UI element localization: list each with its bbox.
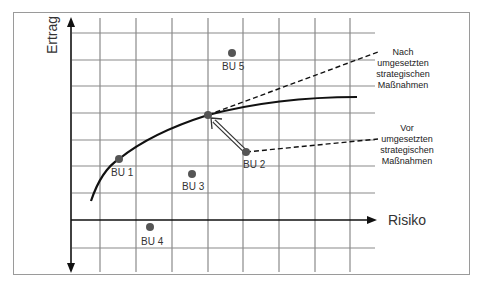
svg-text:umgesetzten: umgesetzten bbox=[381, 134, 433, 144]
x-axis-label: Risiko bbox=[388, 212, 426, 228]
label-bu1: BU 1 bbox=[111, 167, 134, 178]
svg-text:umgesetzten: umgesetzten bbox=[377, 58, 429, 68]
label-bu4: BU 4 bbox=[141, 236, 164, 247]
svg-text:Nach: Nach bbox=[392, 47, 413, 57]
svg-text:Vor: Vor bbox=[400, 123, 414, 133]
arrow-right-icon bbox=[367, 216, 377, 224]
y-axis bbox=[67, 17, 75, 273]
transition-arrow bbox=[211, 118, 244, 150]
svg-text:Maßnahmen: Maßnahmen bbox=[382, 156, 433, 166]
y-axis-label: Ertrag bbox=[44, 16, 60, 54]
label-bu5: BU 5 bbox=[222, 61, 245, 72]
point-bu2-after bbox=[204, 111, 212, 119]
risk-return-diagram: Ertrag Risiko BU 1 BU 2 BU 3 BU 4 BU 5 N… bbox=[0, 0, 482, 287]
before-leader-line bbox=[246, 139, 378, 152]
label-bu3: BU 3 bbox=[182, 181, 205, 192]
point-bu5 bbox=[228, 49, 236, 57]
svg-text:strategischen: strategischen bbox=[376, 69, 430, 79]
point-bu1 bbox=[115, 155, 123, 163]
arrow-down-icon bbox=[67, 263, 75, 273]
arrow-up-icon bbox=[67, 17, 75, 27]
point-bu4 bbox=[146, 223, 154, 231]
annotation-before: Vor umgesetzten strategischen Maßnahmen bbox=[380, 123, 434, 166]
point-bu3 bbox=[188, 170, 196, 178]
label-bu2: BU 2 bbox=[243, 159, 266, 170]
x-axis bbox=[71, 216, 377, 224]
svg-text:strategischen: strategischen bbox=[380, 145, 434, 155]
grid bbox=[72, 18, 375, 272]
point-bu2 bbox=[242, 148, 250, 156]
svg-text:Maßnahmen: Maßnahmen bbox=[378, 80, 429, 90]
annotation-after: Nach umgesetzten strategischen Maßnahmen bbox=[376, 47, 430, 90]
